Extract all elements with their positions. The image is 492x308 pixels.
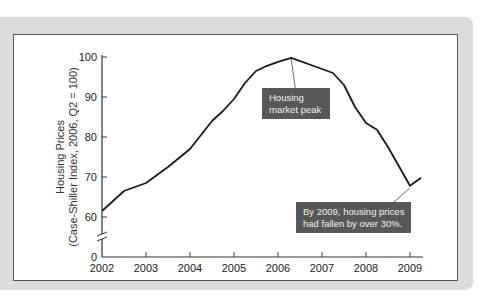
annotation-decline-line-1: By 2009, housing prices (303, 206, 404, 218)
y-tick-label: 60 (85, 211, 97, 223)
y-tick-label: 90 (85, 91, 97, 103)
x-tick-label: 2003 (134, 262, 158, 274)
annotation-peak: Housing market peak (262, 88, 330, 119)
annotation-peak-line-2: market peak (269, 104, 323, 116)
y-axis-label: Housing Prices(Case-Shiller Index, 2006,… (54, 67, 79, 246)
x-tick-label: 2005 (222, 262, 246, 274)
y-axis-label-line: Housing Prices (54, 120, 66, 194)
x-tick-label: 2006 (266, 262, 290, 274)
y-axis-label-line: (Case-Shiller Index, 2006, Q2 = 100) (67, 67, 79, 246)
annotation-decline: By 2009, housing prices had fallen by ov… (296, 202, 411, 233)
x-tick-label: 2002 (90, 262, 114, 274)
annotation-decline-line-2: had fallen by over 30%. (303, 218, 404, 230)
x-tick-label: 2007 (310, 262, 334, 274)
annotation-leader-lines (291, 59, 410, 202)
y-axis-ticks: 060708090100 (79, 51, 107, 263)
annotation-peak-line-1: Housing (269, 92, 323, 104)
y-tick-label: 80 (85, 131, 97, 143)
x-axis-ticks: 20022003200420052006200720082009 (90, 252, 422, 274)
x-tick-label: 2008 (354, 262, 378, 274)
x-tick-label: 2009 (398, 262, 422, 274)
line-chart: Housing Prices(Case-Shiller Index, 2006,… (0, 0, 492, 308)
housing-price-line (102, 58, 421, 211)
y-tick-label: 100 (79, 51, 97, 63)
y-tick-label: 70 (85, 171, 97, 183)
x-tick-label: 2004 (178, 262, 202, 274)
